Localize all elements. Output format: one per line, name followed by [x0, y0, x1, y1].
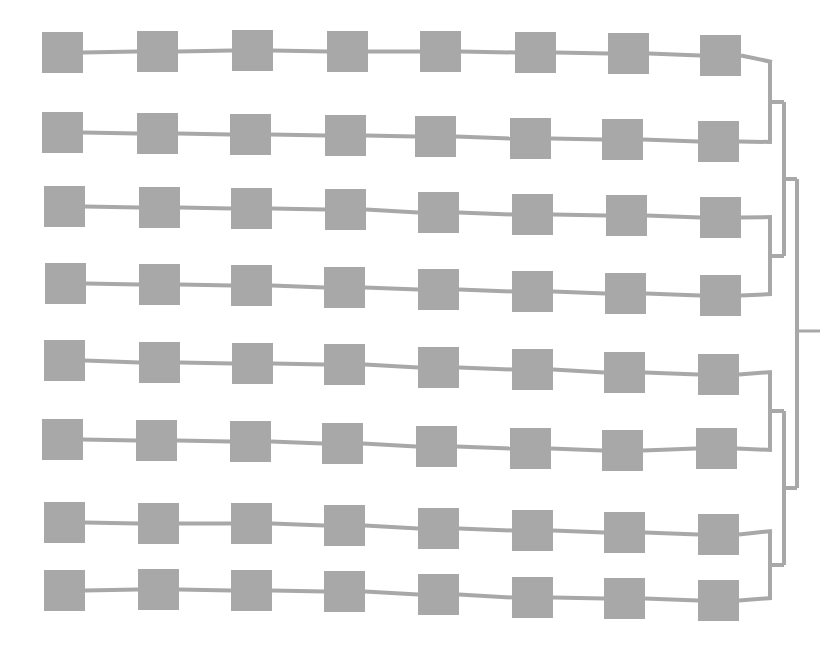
chain-link [645, 373, 698, 375]
node-square [698, 121, 739, 162]
chain-link [271, 442, 322, 444]
node-square [45, 263, 86, 304]
chain-link [461, 52, 515, 53]
chain-link [363, 444, 416, 447]
chain-link [271, 135, 325, 136]
node-square [515, 32, 556, 73]
chain-link [643, 449, 696, 451]
chain-link [457, 447, 510, 449]
node-square [325, 115, 366, 156]
row-exit-link [737, 449, 772, 451]
chain-link [180, 363, 232, 364]
node-square [698, 354, 739, 395]
node-square [418, 269, 459, 310]
chain-link [366, 210, 418, 213]
chain-link [179, 590, 231, 591]
node-square [230, 421, 271, 462]
chain-link [643, 140, 698, 142]
node-square [512, 194, 553, 235]
chain-link [556, 53, 608, 54]
chain-link [553, 215, 606, 216]
dendrogram-figure [0, 0, 835, 656]
row-exit-link [741, 217, 772, 218]
node-square [231, 570, 272, 611]
chain-link [83, 52, 137, 53]
node-square [324, 344, 365, 385]
node-square [137, 113, 178, 154]
chain-link [459, 368, 512, 370]
chain-link [178, 51, 232, 52]
node-square [136, 420, 177, 461]
node-square [42, 419, 83, 460]
node-square [696, 428, 737, 469]
node-square [512, 349, 553, 390]
node-square [605, 273, 646, 314]
row-exit-link [741, 294, 772, 296]
node-square [324, 267, 365, 308]
node-square [42, 32, 83, 73]
row-exit-link [739, 372, 772, 375]
chain-link [456, 137, 510, 139]
chain-link [553, 531, 604, 533]
node-square [602, 119, 643, 160]
chain-link [180, 285, 231, 286]
chain-link [459, 290, 512, 292]
chain-link [177, 441, 230, 442]
node-square [327, 31, 368, 72]
node-square [44, 570, 85, 611]
chain-link [645, 599, 698, 601]
tree-branches-layer [770, 62, 820, 598]
node-square [42, 112, 83, 153]
node-square [512, 577, 553, 618]
row-exit-link [739, 598, 772, 601]
node-square [139, 342, 180, 383]
node-square [44, 340, 85, 381]
chain-link [85, 523, 138, 524]
node-square [139, 264, 180, 305]
node-square [418, 574, 459, 615]
node-square [232, 343, 273, 384]
chain-link [272, 591, 324, 592]
chain-link [649, 54, 700, 56]
chain-link [553, 370, 604, 373]
node-square [698, 580, 739, 621]
chain-link [459, 213, 512, 215]
chain-link [272, 524, 324, 526]
chain-link [272, 209, 325, 210]
node-square [510, 118, 551, 159]
node-square [416, 426, 457, 467]
chain-link [645, 533, 698, 535]
node-square [700, 35, 741, 76]
node-square [415, 116, 456, 157]
node-square [231, 188, 272, 229]
chain-link [365, 592, 418, 595]
chain-link [180, 208, 231, 209]
node-square [137, 31, 178, 72]
node-square [604, 578, 645, 619]
chain-link [273, 364, 324, 365]
chain-link [459, 595, 512, 598]
chain-link [86, 284, 139, 285]
chain-link [85, 590, 138, 591]
chain-link [553, 292, 605, 294]
chain-link [365, 365, 418, 368]
node-square [602, 430, 643, 471]
chain-link [647, 216, 700, 218]
chain-link [273, 51, 327, 52]
node-square [138, 503, 179, 544]
chain-link [178, 134, 230, 135]
node-square [700, 275, 741, 316]
chain-link [83, 440, 136, 441]
row-exit-link [739, 531, 772, 535]
node-square [324, 505, 365, 546]
node-square [418, 347, 459, 388]
chain-link [272, 286, 324, 288]
chain-link [646, 294, 700, 296]
chain-link [551, 449, 602, 451]
chain-link [365, 288, 418, 290]
chain-link [459, 529, 512, 531]
node-square [420, 31, 461, 72]
node-square [608, 33, 649, 74]
node-square [325, 189, 366, 230]
chain-link [85, 361, 139, 363]
